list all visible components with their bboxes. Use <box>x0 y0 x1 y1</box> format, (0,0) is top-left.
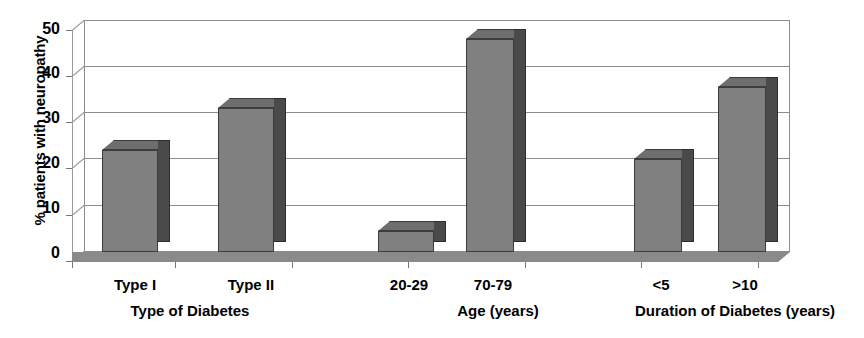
bar-side-face <box>434 221 446 242</box>
x-tick-mark-2 <box>292 262 293 268</box>
x-tick-mark-5 <box>641 262 642 268</box>
bar-type-ii <box>218 108 274 252</box>
bar-front-face <box>218 108 274 252</box>
y-tick-mark-20 <box>66 168 72 169</box>
bar-front-face <box>466 39 514 252</box>
bar-front-face <box>102 150 158 252</box>
bar-age-20-29 <box>378 231 434 252</box>
x-category-label-lt5: <5 <box>652 276 669 293</box>
depth-edge-50 <box>72 20 85 31</box>
x-group-label-type-of-diabetes: Type of Diabetes <box>131 302 250 319</box>
x-category-label-20-29: 20-29 <box>390 276 428 293</box>
bar-side-face <box>274 98 286 242</box>
x-category-label-type-i: Type I <box>114 276 156 293</box>
bar-duration-lt5 <box>634 159 682 252</box>
bar-type-i <box>102 150 158 252</box>
bar-side-face <box>514 29 526 242</box>
chart-floor-right-corner <box>778 252 790 262</box>
chart-floor <box>72 252 778 262</box>
depth-edge-40 <box>72 66 85 77</box>
gridline-50 <box>84 20 790 21</box>
bar-chart: % patients with neuropathy 50 40 30 20 1… <box>0 0 864 338</box>
gridline-40 <box>84 66 790 67</box>
depth-edge-10 <box>72 205 85 216</box>
bar-side-face <box>158 140 170 242</box>
depth-edge-30 <box>72 112 85 123</box>
x-category-label-70-79: 70-79 <box>474 276 512 293</box>
x-group-label-duration: Duration of Diabetes (years) <box>635 302 835 319</box>
x-category-label-gt10: >10 <box>732 276 757 293</box>
y-tick-mark-10 <box>66 215 72 216</box>
bar-front-face <box>718 87 766 252</box>
y-tick-mark-50 <box>66 30 72 31</box>
bar-front-face <box>378 231 434 252</box>
x-tick-mark-3 <box>408 262 409 268</box>
bar-side-face <box>682 149 694 242</box>
x-tick-mark-6 <box>758 262 759 268</box>
x-category-label-type-ii: Type II <box>228 276 274 293</box>
bar-age-70-79 <box>466 39 514 252</box>
gridline-30 <box>84 112 790 113</box>
x-tick-mark-1 <box>175 262 176 268</box>
bar-duration-gt10 <box>718 87 766 252</box>
x-group-label-age: Age (years) <box>457 302 539 319</box>
bar-front-face <box>634 159 682 252</box>
x-tick-mark-0 <box>72 262 73 268</box>
bar-side-face <box>766 77 778 242</box>
y-tick-mark-30 <box>66 122 72 123</box>
y-tick-mark-40 <box>66 76 72 77</box>
x-tick-mark-4 <box>525 262 526 268</box>
y-axis-line <box>72 30 73 262</box>
depth-edge-20 <box>72 158 85 169</box>
